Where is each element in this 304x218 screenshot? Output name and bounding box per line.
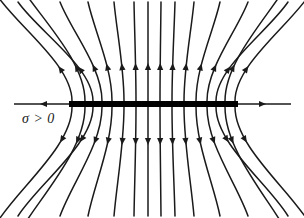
field-line	[235, 0, 304, 101]
field-line	[172, 2, 175, 101]
field-arrowhead	[196, 137, 202, 145]
charged-plate	[69, 101, 238, 107]
field-arrowhead	[157, 63, 163, 70]
field-lines-group	[0, 0, 304, 218]
field-arrowhead	[145, 63, 151, 70]
field-line	[60, 2, 102, 101]
field-line	[184, 2, 194, 101]
field-line	[160, 107, 161, 216]
field-arrowhead	[106, 137, 112, 145]
field-line	[0, 0, 72, 101]
field-line	[18, 2, 93, 101]
field-arrowhead	[183, 63, 189, 70]
field-arrowhead	[224, 67, 231, 74]
field-line	[114, 2, 124, 101]
charge-density-label: σ > 0	[22, 111, 55, 127]
field-arrowhead	[40, 101, 47, 107]
field-arrowhead	[169, 138, 175, 145]
field-line	[235, 107, 304, 218]
field-arrowhead	[119, 63, 125, 70]
field-lines-canvas	[0, 0, 304, 218]
field-arrowhead	[145, 138, 151, 145]
field-line	[114, 107, 124, 216]
field-arrowhead	[133, 138, 139, 145]
field-arrowhead	[209, 136, 215, 144]
field-line	[160, 2, 161, 101]
field-arrowhead	[157, 138, 163, 145]
field-diagram: σ > 0	[0, 0, 304, 218]
field-line	[10, 0, 85, 101]
field-line	[184, 107, 194, 216]
field-line	[172, 107, 175, 216]
field-arrowhead	[169, 63, 175, 70]
field-arrowhead	[259, 101, 266, 107]
field-line	[134, 107, 136, 216]
field-line	[134, 2, 136, 101]
field-arrowhead	[133, 63, 139, 70]
